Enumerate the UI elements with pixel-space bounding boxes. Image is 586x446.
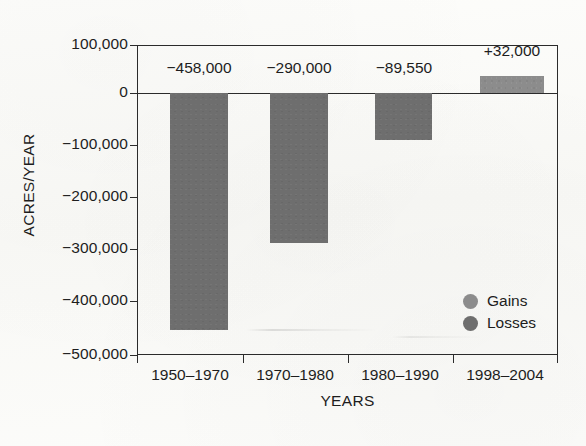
- bar-1970-1980: [270, 93, 328, 243]
- bar-value-label-1970-1980: −290,000: [239, 59, 359, 77]
- legend-marker-losses-icon: [463, 316, 478, 331]
- legend-marker-gains-icon: [463, 294, 478, 309]
- x-axis-tick: [453, 355, 454, 363]
- chart-figure: 100,000 0 −100,000 −200,000 −300,000 −40…: [0, 0, 586, 446]
- bar-1998-2004: [480, 76, 544, 93]
- y-axis-tick-label: −300,000: [24, 239, 128, 257]
- x-axis-title: YEARS: [137, 392, 558, 410]
- bar-1950-1970: [170, 93, 228, 330]
- y-axis-title: ACRES/YEAR: [20, 105, 38, 265]
- y-axis-tick-label: −500,000: [24, 345, 128, 363]
- legend-label-gains: Gains: [487, 292, 528, 310]
- legend-label-losses: Losses: [487, 314, 536, 332]
- x-axis-label-1970-1980: 1970–1980: [240, 366, 350, 384]
- bar-value-label-1980-1990: −89,550: [344, 59, 464, 77]
- x-axis-label-1980-1990: 1980–1990: [345, 366, 455, 384]
- x-axis-tick: [557, 355, 558, 363]
- x-axis-tick: [243, 355, 244, 363]
- legend-item-gains: Gains: [463, 292, 528, 310]
- y-axis-tick-label: −100,000: [24, 135, 128, 153]
- bar-1980-1990: [375, 93, 432, 140]
- x-axis-tick: [137, 355, 138, 363]
- x-axis-label-1998-2004: 1998–2004: [450, 366, 560, 384]
- y-axis-tick-label: 0: [24, 83, 128, 101]
- y-axis-tick-label: −400,000: [24, 291, 128, 309]
- legend-item-losses: Losses: [463, 314, 536, 332]
- y-axis-tick-label: −200,000: [24, 187, 128, 205]
- bar-value-label-1998-2004: +32,000: [452, 42, 572, 60]
- x-axis-label-1950-1970: 1950–1970: [135, 366, 245, 384]
- x-axis-tick: [348, 355, 349, 363]
- y-axis-tick-label: 100,000: [24, 35, 128, 53]
